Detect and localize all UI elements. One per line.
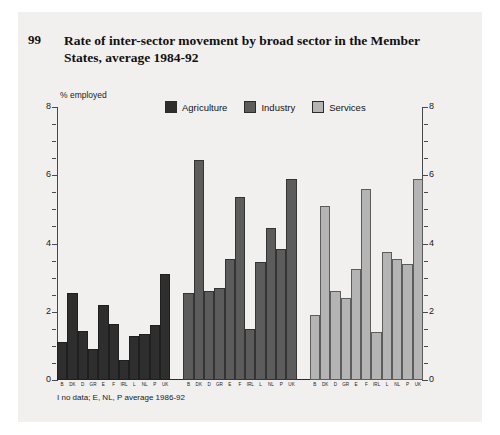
x-axis-label-nl: NL [139,382,149,387]
axis-tick [52,329,56,330]
bar-agriculture-nl [139,334,149,380]
x-axis-label-b: B [57,382,67,387]
bar-industry-uk [286,179,296,380]
x-axis-label-gr: GR [214,382,224,387]
axis-tick [424,192,428,193]
axis-tick [52,380,58,381]
bar-industry-nl [266,228,276,380]
axis-tick [52,226,56,227]
x-axis-label-f: F [109,382,119,387]
bar-services-d [330,291,340,380]
x-axis-label-uk: UK [286,382,296,387]
bar-agriculture-d [78,331,88,380]
page-title: Rate of inter-sector movement by broad s… [64,32,424,66]
bar-services-b [310,315,320,380]
bar-services-irl [371,332,381,380]
x-axis-label-e: E [98,382,108,387]
axis-tick [424,226,428,227]
axis-tick [52,141,56,142]
bar-industry-b [183,293,193,380]
y-axis-tick-label: 8 [429,101,443,111]
x-axis-label-e: E [225,382,235,387]
figure-number: 99 [28,32,41,48]
axis-tick [52,124,56,125]
axis-tick [52,209,56,210]
bar-industry-dk [194,160,204,380]
figure-footnote: I no data; E, NL, P average 1986-92 [57,393,185,402]
bar-services-e [351,269,361,380]
x-axis-label-dk: DK [320,382,330,387]
axis-tick [424,141,428,142]
bar-services-dk [320,206,330,380]
axis-tick [52,158,56,159]
x-axis-label-dk: DK [67,382,77,387]
x-axis-label-b: B [310,382,320,387]
axis-tick [424,261,428,262]
bar-agriculture-p [150,325,160,380]
chart-page: 99 Rate of inter-sector movement by broa… [0,0,500,435]
axis-tick [424,124,428,125]
bar-services-nl [392,259,402,380]
axis-tick [424,363,428,364]
x-axis-label-uk: UK [160,382,170,387]
bar-services-l [382,252,392,380]
x-axis-label-d: D [330,382,340,387]
y-axis-tick-label: 6 [37,169,51,179]
bar-agriculture-uk [160,274,170,380]
x-axis-label-irl: IRL [245,382,255,387]
x-axis-label-e: E [351,382,361,387]
bar-agriculture-irl [119,360,129,380]
x-axis-label-nl: NL [266,382,276,387]
axis-tick [424,346,428,347]
bar-industry-f [235,197,245,380]
y-axis-tick-label: 0 [37,374,51,384]
x-axis-label-l: L [382,382,392,387]
bar-industry-d [204,291,214,380]
bar-industry-e [225,259,235,380]
bar-agriculture-e [98,305,108,380]
x-axis-category-labels: BDKDGREFIRLLNLPUKBDKDGREFIRLLNLPUKBDKDGR… [57,382,423,392]
x-axis-label-d: D [78,382,88,387]
x-axis-label-p: P [276,382,286,387]
bar-services-gr [341,298,351,380]
x-axis-label-b: B [183,382,193,387]
axis-tick [52,278,56,279]
axis-tick [52,261,56,262]
axis-tick [52,192,56,193]
bar-industry-gr [214,288,224,380]
axis-tick [424,278,428,279]
bar-agriculture-l [129,336,139,380]
bar-services-uk [413,179,423,380]
y-axis-tick-label: 4 [37,238,51,248]
bar-industry-p [276,249,286,380]
bar-industry-irl [245,329,255,380]
x-axis-label-f: F [235,382,245,387]
bar-agriculture-dk [67,293,77,380]
axis-tick [52,346,56,347]
axis-tick [424,209,428,210]
x-axis-label-irl: IRL [119,382,129,387]
y-axis-tick-label: 0 [429,374,443,384]
x-axis-label-f: F [361,382,371,387]
y-axis-unit-label: % employed [60,90,107,100]
x-axis-label-p: P [402,382,412,387]
x-axis-label-p: P [150,382,160,387]
y-axis-tick-label: 2 [429,306,443,316]
x-axis-label-gr: GR [88,382,98,387]
bar-industry-l [255,262,265,380]
plot-area: 0022446688 [57,107,423,380]
axis-tick [422,380,428,381]
bar-services-f [361,189,371,380]
bar-agriculture-f [109,324,119,380]
y-axis-tick-label: 8 [37,101,51,111]
bar-agriculture-gr [88,349,98,380]
axis-tick [52,363,56,364]
x-axis-label-uk: UK [413,382,423,387]
bar-agriculture-b [57,342,67,380]
y-axis-tick-label: 2 [37,306,51,316]
x-axis-label-l: L [129,382,139,387]
y-axis-tick-label: 6 [429,169,443,179]
bar-services-p [402,264,412,380]
x-axis-label-nl: NL [392,382,402,387]
y-axis-tick-label: 4 [429,238,443,248]
